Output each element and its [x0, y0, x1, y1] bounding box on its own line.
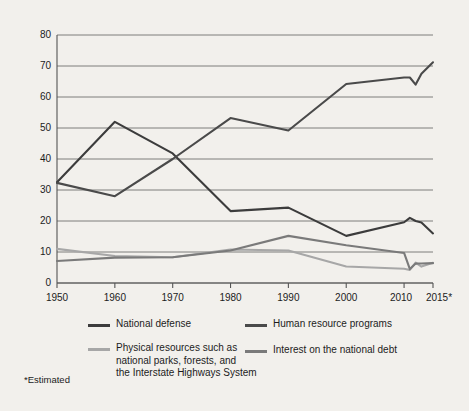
- legend-swatch: [88, 324, 110, 327]
- legend-swatch: [88, 348, 110, 351]
- legend-label: Interest on the national debt: [273, 344, 397, 357]
- legend-label-line: the Interstate Highways System: [116, 367, 257, 380]
- legend-swatch: [245, 350, 267, 353]
- series-line-1: [57, 62, 433, 196]
- legend-label-line: national parks, forests, and: [116, 355, 257, 368]
- chart-figure: Percent of Federal Budget 80706050403020…: [0, 0, 469, 411]
- legend-label-line: Physical resources such as: [116, 342, 257, 355]
- legend-label: National defense: [116, 318, 191, 331]
- legend-label: Human resource programs: [273, 318, 392, 331]
- series-line-0: [57, 122, 433, 236]
- legend-swatch: [245, 324, 267, 327]
- series-lines: [57, 62, 433, 270]
- legend-label: Physical resources such asnational parks…: [116, 342, 257, 380]
- footnote: *Estimated: [24, 374, 70, 385]
- series-line-3: [57, 236, 433, 269]
- chart-legend: National defenseHuman resource programsP…: [0, 318, 469, 380]
